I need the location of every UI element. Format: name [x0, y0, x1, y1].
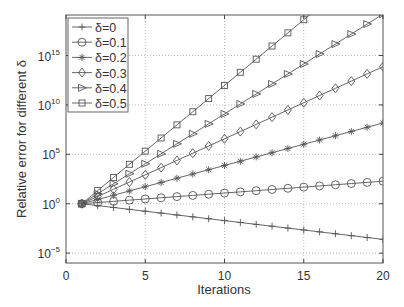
legend-label: δ=0.5: [95, 97, 127, 111]
asterisk-marker-icon: [189, 170, 196, 177]
legend: δ=0δ=0.1δ=0.2δ=0.3δ=0.4δ=0.5: [68, 18, 128, 112]
asterisk-marker-icon: [284, 145, 291, 152]
y-tick-label: 105: [42, 146, 60, 162]
asterisk-marker-icon: [253, 153, 260, 160]
x-tick-label: 20: [376, 269, 390, 283]
x-axis-label: Iterations: [197, 282, 251, 297]
asterisk-marker-icon: [205, 166, 212, 173]
asterisk-marker-icon: [364, 124, 371, 131]
plus-marker-icon: [348, 232, 355, 239]
x-tick-label: 15: [297, 269, 311, 283]
y-tick-label: 1010: [38, 97, 61, 113]
asterisk-marker-icon: [173, 175, 180, 182]
plus-marker-icon: [269, 223, 276, 230]
asterisk-marker-icon: [332, 132, 339, 139]
x-tick-label: 0: [63, 269, 70, 283]
asterisk-marker-icon: [269, 149, 276, 156]
plus-marker-icon: [173, 211, 180, 218]
y-axis-label: Relative error for different δ: [14, 60, 29, 218]
y-tick-label: 100: [42, 196, 60, 212]
y-tick-label: 1015: [38, 48, 61, 64]
chart: 0510152010−510010510101015 Iterations Re…: [0, 0, 404, 307]
asterisk-marker-icon: [79, 54, 86, 61]
plus-marker-icon: [221, 217, 228, 224]
x-tick-label: 5: [142, 269, 149, 283]
plus-marker-icon: [253, 221, 260, 228]
asterisk-marker-icon: [316, 136, 323, 143]
asterisk-marker-icon: [110, 192, 117, 199]
asterisk-marker-icon: [158, 179, 165, 186]
asterisk-marker-icon: [142, 183, 149, 190]
plus-marker-icon: [237, 219, 244, 226]
plus-marker-icon: [189, 213, 196, 220]
plus-marker-icon: [316, 228, 323, 235]
legend-label: δ=0.4: [95, 82, 127, 96]
plus-marker-icon: [284, 225, 291, 232]
plus-marker-icon: [364, 234, 371, 241]
x-tick-label: 10: [218, 269, 232, 283]
asterisk-marker-icon: [237, 158, 244, 165]
plus-marker-icon: [142, 208, 149, 215]
series-line: [78, 200, 386, 243]
plus-marker-icon: [300, 226, 307, 233]
asterisk-marker-icon: [300, 141, 307, 148]
legend-label: δ=0.3: [95, 67, 127, 81]
y-tick-label: 10−5: [38, 245, 61, 261]
series-line: [78, 119, 386, 207]
plus-marker-icon: [332, 230, 339, 237]
plus-marker-icon: [126, 206, 133, 213]
asterisk-marker-icon: [126, 187, 133, 194]
legend-label: δ=0: [95, 21, 116, 35]
asterisk-marker-icon: [221, 162, 228, 169]
asterisk-marker-icon: [348, 128, 355, 135]
plus-marker-icon: [205, 215, 212, 222]
plus-marker-icon: [158, 210, 165, 217]
legend-label: δ=0.1: [95, 36, 127, 50]
legend-label: δ=0.2: [95, 51, 127, 65]
